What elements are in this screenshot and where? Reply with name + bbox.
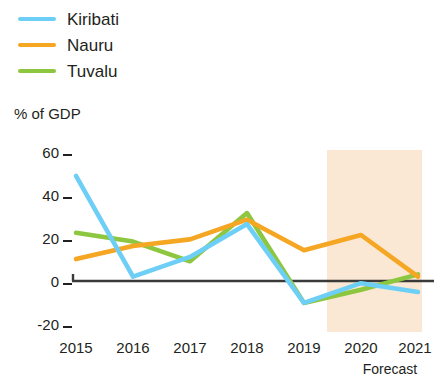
chart-legend: Kiribati Nauru Tuvalu xyxy=(18,6,258,84)
x-tick-2019: 2019 xyxy=(287,340,320,355)
legend-swatch-nauru xyxy=(18,43,56,47)
chart-plot-area xyxy=(0,130,434,335)
chart-page: Kiribati Nauru Tuvalu % of GDP 60 40 20 … xyxy=(0,0,434,381)
legend-label-kiribati: Kiribati xyxy=(67,11,119,28)
forecast-caption: Forecast xyxy=(363,362,417,376)
x-tick-2018: 2018 xyxy=(230,340,263,355)
legend-item-tuvalu: Tuvalu xyxy=(18,58,258,84)
x-tick-2020: 2020 xyxy=(344,340,377,355)
x-tick-2021: 2021 xyxy=(398,340,431,355)
legend-swatch-kiribati xyxy=(18,17,56,21)
legend-item-nauru: Nauru xyxy=(18,32,258,58)
x-tick-2017: 2017 xyxy=(173,340,206,355)
legend-label-tuvalu: Tuvalu xyxy=(67,63,117,80)
y-axis-unit-label: % of GDP xyxy=(14,106,81,121)
legend-swatch-tuvalu xyxy=(18,69,56,73)
legend-item-kiribati: Kiribati xyxy=(18,6,258,32)
x-tick-2016: 2016 xyxy=(116,340,149,355)
x-tick-2015: 2015 xyxy=(59,340,92,355)
legend-label-nauru: Nauru xyxy=(67,37,113,54)
